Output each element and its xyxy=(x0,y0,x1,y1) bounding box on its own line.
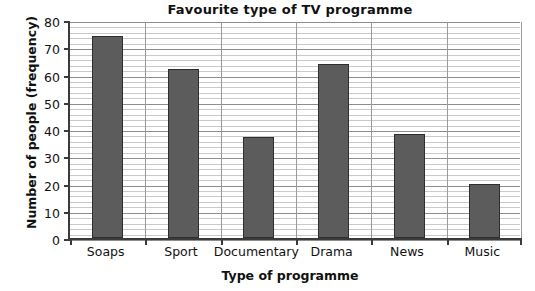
gridline-vertical xyxy=(221,22,222,238)
gridline-minor xyxy=(70,202,520,203)
gridline-vertical xyxy=(371,22,372,238)
gridline-major xyxy=(70,240,520,241)
gridline-minor xyxy=(70,93,520,94)
gridline-major xyxy=(70,77,520,78)
gridline-minor xyxy=(70,115,520,116)
x-tick-mark xyxy=(145,238,147,245)
y-tick-label: 70 xyxy=(44,42,60,57)
y-tick-label: 80 xyxy=(44,15,60,30)
x-tick-label: News xyxy=(390,244,424,259)
gridline-major xyxy=(70,158,520,159)
gridline-minor xyxy=(70,191,520,192)
y-tick-mark xyxy=(64,157,70,159)
y-tick-mark xyxy=(64,48,70,50)
y-tick-mark xyxy=(64,212,70,214)
gridline-minor xyxy=(70,60,520,61)
y-tick-mark xyxy=(64,21,70,23)
x-axis-ticks xyxy=(70,22,520,238)
x-tick-label: Documentary xyxy=(214,244,299,259)
gridline-major xyxy=(70,49,520,50)
gridline-minor xyxy=(70,82,520,83)
gridline-minor xyxy=(70,120,520,121)
bar-news xyxy=(394,134,425,238)
gridline-major xyxy=(70,22,520,23)
gridline-minor xyxy=(70,147,520,148)
x-tick-label: Sport xyxy=(164,244,198,259)
gridline-major xyxy=(70,131,520,132)
plot-area: 01020304050607080 xyxy=(68,22,520,240)
bar-documentary xyxy=(243,137,274,238)
gridline-minor xyxy=(70,38,520,39)
gridline-major xyxy=(70,186,520,187)
gridline-minor xyxy=(70,136,520,137)
x-axis-title: Type of programme xyxy=(60,268,520,283)
gridline-minor xyxy=(70,218,520,219)
y-tick-mark xyxy=(64,76,70,78)
gridline-minor xyxy=(70,142,520,143)
y-tick-label: 20 xyxy=(44,178,60,193)
x-tick-mark xyxy=(447,238,449,245)
gridline-minor xyxy=(70,207,520,208)
gridline-minor xyxy=(70,196,520,197)
gridline-minor xyxy=(70,169,520,170)
gridline-minor xyxy=(70,175,520,176)
gridline-minor xyxy=(70,66,520,67)
x-tick-mark xyxy=(371,238,373,245)
gridline-minor xyxy=(70,180,520,181)
gridline-minor xyxy=(70,153,520,154)
bar-music xyxy=(469,184,500,239)
gridline-minor xyxy=(70,229,520,230)
y-tick-mark xyxy=(64,103,70,105)
x-tick-label: Drama xyxy=(311,244,353,259)
y-tick-mark xyxy=(64,239,70,241)
bar-sport xyxy=(168,69,199,238)
gridline-minor xyxy=(70,33,520,34)
gridline-minor xyxy=(70,164,520,165)
y-tick-mark xyxy=(64,185,70,187)
y-tick-mark xyxy=(64,130,70,132)
gridline-vertical xyxy=(145,22,146,238)
gridline-minor xyxy=(70,126,520,127)
y-tick-label: 30 xyxy=(44,151,60,166)
x-tick-label: Soaps xyxy=(87,244,125,259)
gridline-minor xyxy=(70,224,520,225)
y-tick-label: 0 xyxy=(52,233,60,248)
y-axis-title: Number of people (frequency) xyxy=(24,8,39,238)
gridline-minor xyxy=(70,98,520,99)
gridline-vertical xyxy=(296,22,297,238)
bar-series xyxy=(70,22,520,238)
chart-title: Favourite type of TV programme xyxy=(60,2,520,17)
gridline-minor xyxy=(70,109,520,110)
y-tick-label: 10 xyxy=(44,205,60,220)
x-tick-mark xyxy=(520,238,522,245)
y-axis-ticks: 01020304050607080 xyxy=(70,22,520,238)
gridline-minor xyxy=(70,87,520,88)
gridline-minor xyxy=(70,55,520,56)
x-tick-label: Music xyxy=(465,244,501,259)
chart-figure: Favourite type of TV programme Number of… xyxy=(0,0,535,291)
gridline-minor xyxy=(70,235,520,236)
gridline-minor xyxy=(70,27,520,28)
y-tick-label: 50 xyxy=(44,96,60,111)
y-tick-label: 60 xyxy=(44,69,60,84)
gridline-minor xyxy=(70,44,520,45)
gridline-minor xyxy=(70,71,520,72)
bar-drama xyxy=(318,64,349,238)
gridline-major xyxy=(70,213,520,214)
gridline-vertical xyxy=(447,22,448,238)
bar-soaps xyxy=(92,36,123,238)
y-tick-label: 40 xyxy=(44,124,60,139)
gridlines xyxy=(70,22,520,238)
x-tick-mark xyxy=(70,238,72,245)
gridline-major xyxy=(70,104,520,105)
gridline-vertical xyxy=(521,22,522,238)
